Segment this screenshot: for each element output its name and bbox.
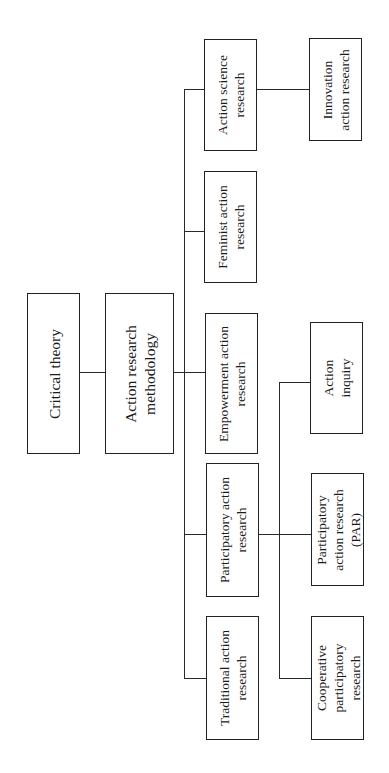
connector-arm-to-bus xyxy=(174,372,205,373)
connector-to-feminist xyxy=(184,231,204,232)
sub-bus-vertical xyxy=(279,382,280,679)
node-label: Critical theory xyxy=(44,329,63,419)
node-label: Participatory action research (PAR) xyxy=(312,489,363,570)
connector-critical-to-arm xyxy=(80,372,105,373)
connector-to-action-inquiry xyxy=(279,382,310,383)
node-participatory-action-research: Participatory action research xyxy=(206,463,259,597)
node-label: Action science research xyxy=(214,55,248,135)
node-label: Empowerment action research xyxy=(215,326,249,442)
connector-action-science-to-innovation xyxy=(257,89,309,90)
connector-to-traditional xyxy=(184,678,206,679)
node-action-research-methodology: Action research methodology xyxy=(105,293,174,454)
node-action-inquiry: Action inquiry xyxy=(310,322,363,434)
node-label: Action research methodology xyxy=(121,325,159,423)
connector-participatory-to-par xyxy=(259,534,311,535)
connector-to-action-science xyxy=(184,89,204,90)
main-bus-vertical xyxy=(184,89,185,679)
node-label: Participatory action research xyxy=(216,477,250,583)
node-label: Cooperative participatory research xyxy=(312,644,363,713)
node-critical-theory: Critical theory xyxy=(27,293,80,454)
node-innovation-action-research: Innovation action research xyxy=(309,38,362,141)
node-cooperative-participatory-research: Cooperative participatory research xyxy=(311,616,364,740)
node-label: Innovation action research xyxy=(319,49,353,130)
node-par: Participatory action research (PAR) xyxy=(311,473,364,586)
connector-to-participatory xyxy=(184,534,206,535)
node-label: Traditional action research xyxy=(216,630,250,726)
node-label: Feminist action research xyxy=(214,185,248,269)
connector-to-cooperative xyxy=(279,678,311,679)
node-traditional-action-research: Traditional action research xyxy=(206,616,259,740)
node-feminist-action-research: Feminist action research xyxy=(204,171,257,283)
node-label: Action inquiry xyxy=(320,359,354,398)
node-empowerment-action-research: Empowerment action research xyxy=(205,313,258,454)
node-action-science-research: Action science research xyxy=(204,39,257,151)
